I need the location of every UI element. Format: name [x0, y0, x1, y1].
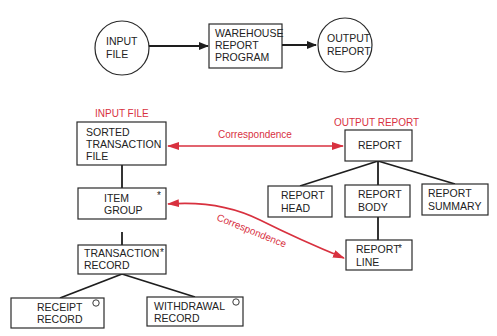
node-label-line-1: REPORT	[358, 188, 402, 200]
edge-transaction-to-withdrawal	[122, 274, 195, 297]
iteration-marker: *	[157, 190, 161, 201]
top-flow: INPUT FILE WAREHOUSE REPORT PROGRAM OUTP…	[95, 18, 372, 75]
report-node: REPORT	[345, 130, 412, 161]
node-label-line-1: TRANSACTION	[84, 247, 159, 259]
report-head-node: REPORT HEAD	[268, 186, 332, 217]
input-file-label-line-2: FILE	[106, 48, 128, 60]
node-label-line-2: SUMMARY	[428, 200, 481, 212]
sorted-transaction-file-node: SORTED TRANSACTION FILE	[77, 122, 166, 165]
program-label-line-2: REPORT	[215, 39, 259, 51]
report-line-node: REPORT LINE *	[346, 240, 412, 270]
iteration-marker: *	[398, 243, 402, 254]
jackson-structure-diagram: INPUT FILE WAREHOUSE REPORT PROGRAM OUTP…	[0, 0, 497, 336]
edge-report-to-summary	[378, 161, 455, 184]
output-structure: OUTPUT REPORT REPORT REPORT HEAD REPORT …	[268, 117, 488, 270]
edge-transaction-to-receipt	[60, 274, 122, 298]
node-label-line-2: TRANSACTION	[86, 138, 161, 150]
output-report-label-line-1: OUTPUT	[327, 32, 371, 44]
program-label-line-1: WAREHOUSE	[215, 27, 283, 39]
node-label-line-1: REPORT	[356, 243, 400, 255]
program-label-line-3: PROGRAM	[215, 51, 269, 63]
report-body-node: REPORT BODY	[345, 185, 410, 217]
item-group-node: ITEM GROUP *	[78, 188, 166, 219]
node-label-line-2: HEAD	[281, 202, 311, 214]
node-label-line-2: RECORD	[84, 259, 130, 271]
output-report-node: OUTPUT REPORT	[318, 18, 372, 72]
transaction-record-node: TRANSACTION RECORD *	[78, 245, 166, 274]
correspondence-label: Correspondence	[218, 129, 292, 140]
input-structure-heading: INPUT FILE	[95, 108, 149, 119]
node-label-line-1: SORTED	[86, 126, 130, 138]
node-label-line-1: REPORT	[281, 189, 325, 201]
node-label-line-2: RECORD	[37, 313, 83, 325]
withdrawal-record-node: WITHDRAWAL RECORD	[147, 297, 243, 326]
report-summary-node: REPORT SUMMARY	[422, 184, 488, 215]
node-label-line-1: REPORT	[358, 139, 402, 151]
output-structure-heading: OUTPUT REPORT	[334, 117, 419, 128]
node-label-line-1: WITHDRAWAL	[154, 300, 225, 312]
output-report-label-line-2: REPORT	[327, 45, 371, 57]
node-label-line-2: RECORD	[154, 312, 200, 324]
receipt-record-node: RECEIPT RECORD	[11, 298, 104, 328]
node-label-line-1: ITEM	[104, 192, 129, 204]
node-label-line-1: RECEIPT	[37, 301, 83, 313]
node-label-line-2: LINE	[356, 256, 379, 268]
node-label-line-1: REPORT	[428, 187, 472, 199]
node-label-line-2: GROUP	[104, 204, 143, 216]
input-structure: INPUT FILE SORTED TRANSACTION FILE ITEM …	[11, 108, 243, 328]
iteration-marker: *	[160, 247, 164, 258]
edge-report-to-head	[300, 161, 378, 186]
node-label-line-2: BODY	[358, 201, 388, 213]
warehouse-report-program-node: WAREHOUSE REPORT PROGRAM	[209, 24, 283, 68]
input-file-node: INPUT FILE	[95, 21, 149, 75]
input-file-label-line-1: INPUT	[106, 35, 138, 47]
node-label-line-3: FILE	[86, 150, 108, 162]
